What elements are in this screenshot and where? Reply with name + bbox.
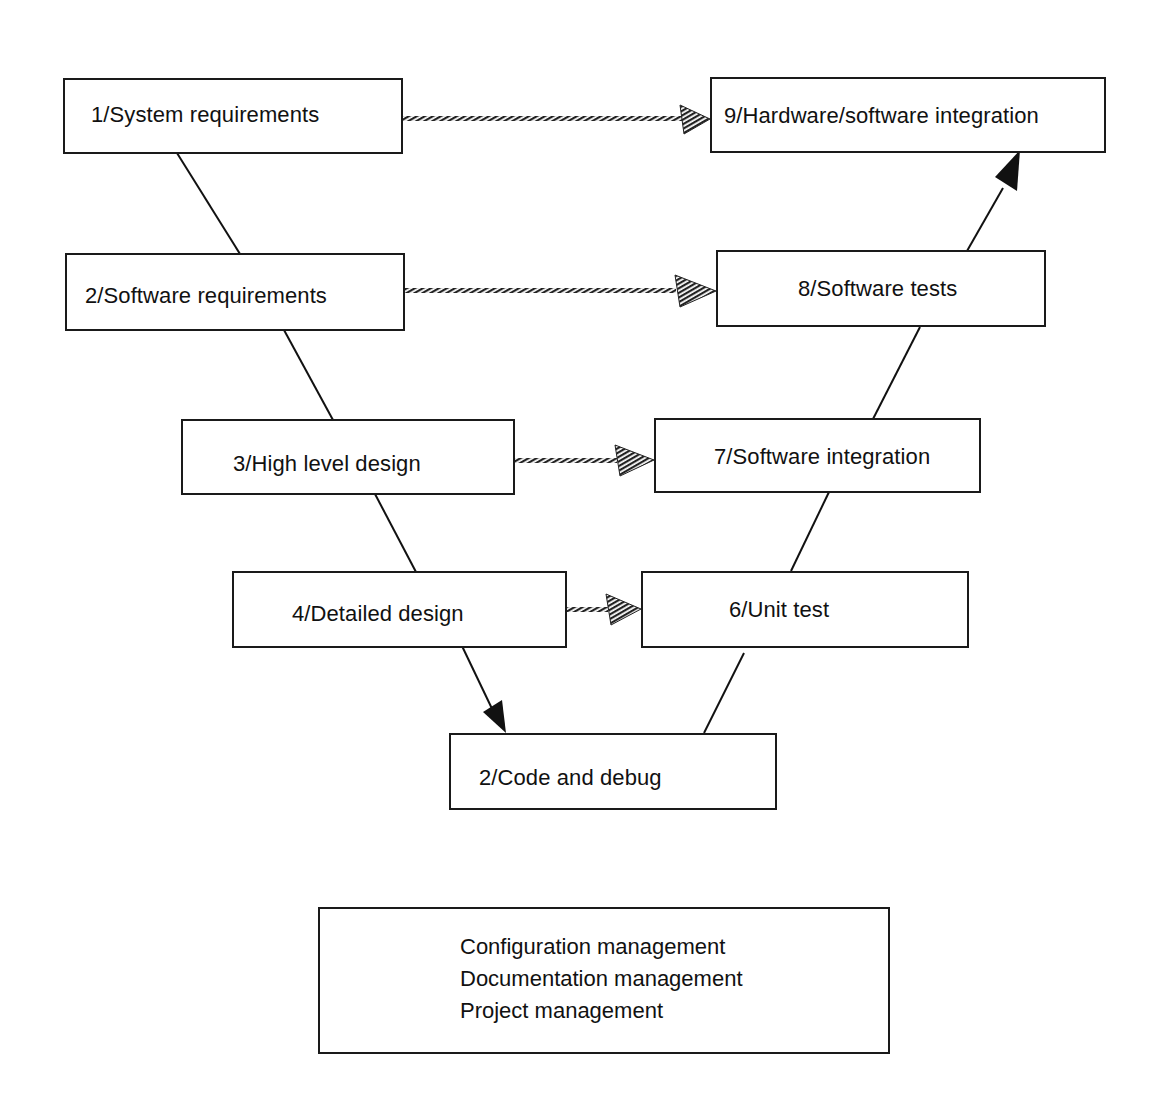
box-software-integration: 7/Software integration [654,418,981,493]
box-software-requirements: 2/Software requirements [65,253,405,331]
management-box: Configuration management Documentation m… [318,907,890,1054]
arrow-8-to-9 [967,150,1020,251]
box-label: 1/System requirements [91,102,319,128]
box-label: 8/Software tests [798,276,957,302]
box-unit-test: 6/Unit test [641,571,969,648]
management-item: Documentation management [460,963,743,995]
box-system-requirements: 1/System requirements [63,78,403,154]
edge-1-2 [177,153,240,254]
box-detailed-design: 4/Detailed design [232,571,567,648]
edge-7-8 [873,327,920,419]
box-label: 2/Code and debug [479,765,662,791]
hatched-arrow-2-to-8 [404,275,716,307]
box-label: 2/Software requirements [85,283,327,309]
box-label: 9/Hardware/software integration [724,103,1039,129]
hatched-arrow-4-to-6 [566,594,641,625]
box-label: 3/High level design [233,451,421,477]
edge-5-6 [704,653,744,733]
edge-2-3 [284,330,333,420]
management-item: Configuration management [460,931,743,963]
box-hardware-software-integration: 9/Hardware/software integration [710,77,1106,153]
box-label: 6/Unit test [729,597,829,623]
hatched-arrow-3-to-7 [515,445,654,476]
hatched-arrow-1-to-9 [402,105,710,134]
box-high-level-design: 3/High level design [181,419,515,495]
box-software-tests: 8/Software tests [716,250,1046,327]
box-label: 4/Detailed design [292,601,464,627]
arrow-4-to-5 [462,646,506,733]
management-list: Configuration management Documentation m… [460,931,743,1027]
edge-3-4 [375,494,416,572]
management-item: Project management [460,995,743,1027]
box-label: 7/Software integration [714,444,930,470]
box-code-and-debug: 2/Code and debug [449,733,777,810]
edge-6-7 [791,492,829,571]
